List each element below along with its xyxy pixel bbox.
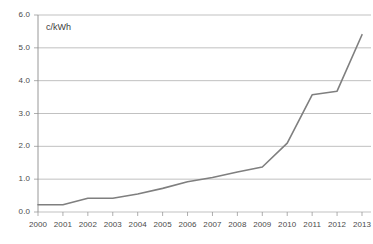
plot-area: [0, 0, 373, 244]
x-axis-tick-marks: [38, 212, 362, 216]
gridlines: [38, 15, 371, 212]
line-chart-figure: c/kWh 0.01.02.03.04.05.06.0 200020012002…: [0, 0, 373, 244]
y-axis-tick-marks: [34, 15, 38, 212]
